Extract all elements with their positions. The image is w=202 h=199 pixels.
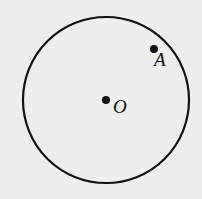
point-o-label: O (113, 96, 127, 117)
point-o-dot (102, 96, 110, 104)
point-a-label: A (152, 49, 166, 70)
geometry-diagram: OA (0, 0, 202, 199)
diagram-canvas: OA (0, 0, 202, 199)
